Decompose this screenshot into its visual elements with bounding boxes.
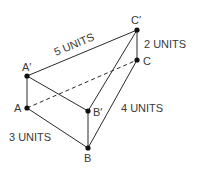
label-a: A <box>14 102 22 114</box>
label-a-prime: A′ <box>22 61 31 73</box>
label-b-prime: B′ <box>93 106 102 118</box>
measure-a-prime-c-prime: 5 UNITS <box>52 30 96 57</box>
edge-a-c-hidden <box>27 60 137 108</box>
label-c: C <box>143 55 151 67</box>
point-a-prime <box>24 73 29 78</box>
prism-diagram: A′ A B′ B C′ C 5 UNITS 2 UNITS 4 UNITS 3… <box>0 0 198 172</box>
measure-c-prime-c: 2 UNITS <box>144 38 186 50</box>
measure-a-b: 3 UNITS <box>9 131 51 143</box>
point-b <box>85 145 90 150</box>
point-a <box>24 105 29 110</box>
point-c-prime <box>134 27 139 32</box>
label-c-prime: C′ <box>131 14 141 26</box>
label-b: B <box>84 152 91 164</box>
measure-b-c: 4 UNITS <box>121 102 163 114</box>
edge-a-prime-b-prime <box>27 76 88 111</box>
point-b-prime <box>85 108 90 113</box>
point-c <box>134 57 139 62</box>
